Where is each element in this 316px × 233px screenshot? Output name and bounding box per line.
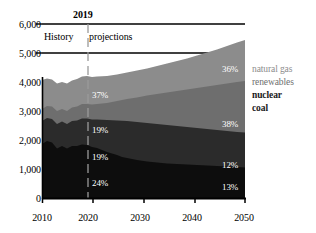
pct-coal-2050: 13% (222, 182, 238, 192)
pct-nuclear-2050: 12% (222, 160, 238, 170)
pct-natural-gas-2050: 36% (222, 64, 238, 74)
pct-renewables-2050: 38% (222, 119, 238, 129)
chart-container: 6,000 5,000 4,000 3,000 2,000 1,000 0 20… (0, 0, 316, 233)
pct-coal-2020: 24% (92, 178, 108, 188)
pct-natural-gas-2020: 37% (92, 90, 108, 100)
projections-label: projections (89, 31, 132, 42)
history-label: History (44, 31, 73, 42)
legend-nuclear: nuclear (252, 90, 282, 100)
legend-natural-gas: natural gas (252, 64, 292, 74)
legend-coal: coal (252, 103, 268, 113)
pct-nuclear-2020: 19% (92, 152, 108, 162)
divider-year-label: 2019 (73, 9, 93, 20)
legend-renewables: renewables (252, 77, 294, 87)
pct-renewables-2020: 19% (92, 125, 108, 135)
